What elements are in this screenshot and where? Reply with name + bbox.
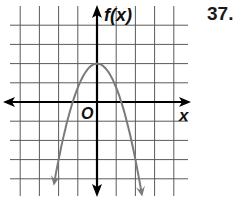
origin-label: O [81,105,94,122]
problem-number: 37. [207,3,233,25]
coordinate-graph: f(x) x O [0,0,251,201]
y-axis-label: f(x) [104,5,132,25]
x-axis-label: x [178,106,190,125]
